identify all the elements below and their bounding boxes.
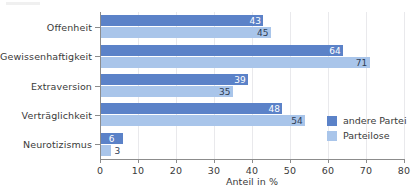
x-tick-label: 40 [246, 165, 259, 176]
x-tick-mark [328, 159, 329, 163]
bar-verträglichkeit-andere-partei [100, 103, 282, 114]
y-tick-mark [95, 115, 100, 116]
bar-value-label: 35 [219, 87, 231, 97]
x-tick-label: 0 [97, 165, 103, 176]
bar-value-label: 45 [257, 28, 269, 38]
y-tick-mark [95, 144, 100, 145]
gridline [290, 12, 291, 159]
bar-value-label: 43 [249, 16, 261, 26]
legend-label: andere Partei [343, 115, 407, 126]
x-tick-mark [290, 159, 291, 163]
bar-value-label: 64 [329, 46, 341, 56]
horizontal-bar-chart: 434564713935485463 01020304050607080Offe… [0, 0, 417, 190]
category-label-verträglichkeit: Verträglichkeit [22, 109, 92, 120]
category-label-neurotizismus: Neurotizismus [23, 139, 92, 150]
y-axis-line [100, 12, 101, 160]
x-tick-mark [404, 159, 405, 163]
bar-neurotizismus-parteilose [100, 145, 111, 156]
chart-legend: andere ParteiParteilose [327, 113, 407, 143]
bar-value-label: 39 [234, 75, 246, 85]
x-tick-label: 50 [284, 165, 297, 176]
category-label-gewissenhaftigkeit: Gewissenhaftigkeit [0, 51, 92, 62]
bar-extraversion-parteilose [100, 86, 233, 97]
x-tick-label: 80 [398, 165, 411, 176]
legend-item-parteilose: Parteilose [327, 128, 407, 143]
bar-extraversion-andere-partei [100, 74, 248, 85]
bar-offenheit-andere-partei [100, 15, 263, 26]
bar-value-label: 71 [356, 58, 368, 68]
x-tick-mark [176, 159, 177, 163]
bar-gewissenhaftigkeit-parteilose [100, 57, 370, 68]
bar-value-label: 48 [268, 104, 280, 114]
bar-offenheit-parteilose [100, 27, 271, 38]
category-label-extraversion: Extraversion [31, 80, 92, 91]
bar-verträglichkeit-parteilose [100, 115, 305, 126]
category-label-offenheit: Offenheit [47, 21, 92, 32]
x-tick-label: 60 [322, 165, 335, 176]
bar-gewissenhaftigkeit-andere-partei [100, 45, 343, 56]
x-tick-mark [366, 159, 367, 163]
x-tick-label: 70 [360, 165, 373, 176]
bar-value-label: 54 [291, 116, 303, 126]
x-tick-label: 20 [170, 165, 183, 176]
x-tick-label: 10 [132, 165, 145, 176]
x-tick-mark [252, 159, 253, 163]
y-tick-mark [95, 86, 100, 87]
x-axis-title: Anteil in % [100, 176, 404, 187]
y-tick-mark [95, 27, 100, 28]
x-tick-mark [100, 159, 101, 163]
bar-value-label: 3 [114, 146, 120, 156]
x-tick-label: 30 [208, 165, 221, 176]
legend-label: Parteilose [343, 130, 389, 141]
legend-swatch-icon [327, 131, 337, 141]
legend-swatch-icon [327, 116, 337, 126]
legend-item-andere-partei: andere Partei [327, 113, 407, 128]
bar-value-label: 6 [109, 134, 115, 144]
y-tick-mark [95, 56, 100, 57]
x-tick-mark [138, 159, 139, 163]
scan-artifact [6, 2, 40, 5]
x-tick-mark [214, 159, 215, 163]
